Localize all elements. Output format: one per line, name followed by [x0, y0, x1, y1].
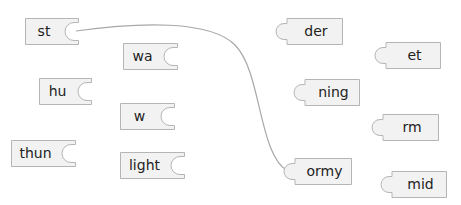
- piece-label: ormy: [297, 158, 352, 185]
- left-piece-thun[interactable]: thun: [11, 140, 76, 167]
- right-piece-rm[interactable]: rm: [371, 114, 439, 141]
- piece-label: wa: [123, 43, 162, 70]
- piece-label: der: [289, 18, 343, 45]
- piece-label: et: [388, 42, 441, 69]
- right-piece-ning[interactable]: ning: [293, 79, 360, 106]
- left-piece-hu[interactable]: hu: [39, 78, 92, 105]
- piece-label: thun: [11, 140, 60, 167]
- piece-label: light: [120, 152, 169, 179]
- right-piece-et[interactable]: et: [374, 42, 441, 69]
- right-piece-ormy[interactable]: ormy: [283, 158, 352, 185]
- piece-label: mid: [394, 171, 447, 198]
- left-piece-w[interactable]: w: [120, 103, 175, 130]
- piece-label: ning: [307, 79, 360, 106]
- right-piece-mid[interactable]: mid: [380, 171, 447, 198]
- left-piece-st[interactable]: st: [25, 18, 79, 45]
- piece-label: hu: [39, 78, 76, 105]
- piece-label: rm: [385, 114, 439, 141]
- piece-label: st: [25, 18, 63, 45]
- left-piece-wa[interactable]: wa: [123, 43, 178, 70]
- piece-label: w: [120, 103, 159, 130]
- right-piece-der[interactable]: der: [275, 18, 343, 45]
- left-piece-light[interactable]: light: [120, 152, 185, 179]
